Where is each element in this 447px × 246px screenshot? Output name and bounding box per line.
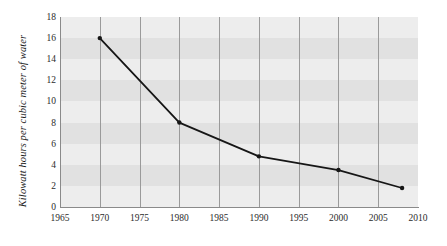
series-polyline bbox=[100, 38, 402, 188]
x-tick-label: 2005 bbox=[358, 212, 398, 224]
x-tick-label: 2000 bbox=[318, 212, 358, 224]
x-tick-label: 1980 bbox=[159, 212, 199, 224]
y-tick-label: 4 bbox=[36, 160, 56, 170]
x-tick-label: 2010 bbox=[398, 212, 438, 224]
y-tick-label: 12 bbox=[36, 75, 56, 85]
y-tick-label: 0 bbox=[36, 202, 56, 212]
y-axis-title: Kilowatt hours per cubic meter of water bbox=[17, 21, 33, 221]
x-axis-tick-labels: 1965197019751980198519901995200020052010 bbox=[0, 212, 447, 228]
x-tick-label: 1975 bbox=[120, 212, 160, 224]
data-point-1970 bbox=[98, 36, 102, 40]
x-axis-line bbox=[60, 207, 419, 208]
data-series-line bbox=[60, 17, 418, 207]
y-tick-label: 8 bbox=[36, 118, 56, 128]
x-tick-label: 1995 bbox=[279, 212, 319, 224]
data-point-2008 bbox=[400, 186, 404, 190]
x-tick-label: 1965 bbox=[40, 212, 80, 224]
line-chart: Kilowatt hours per cubic meter of water … bbox=[0, 0, 447, 246]
x-tick-label: 1985 bbox=[199, 212, 239, 224]
y-tick-label: 2 bbox=[36, 181, 56, 191]
y-tick-label: 10 bbox=[36, 96, 56, 106]
data-point-1980 bbox=[177, 120, 181, 124]
y-tick-label: 14 bbox=[36, 54, 56, 64]
x-tick-label: 1990 bbox=[239, 212, 279, 224]
data-point-2000 bbox=[336, 168, 340, 172]
y-tick-label: 6 bbox=[36, 139, 56, 149]
plot-area bbox=[60, 17, 418, 207]
y-axis-tick-labels: 024681012141618 bbox=[36, 17, 56, 207]
data-point-1990 bbox=[257, 154, 261, 158]
y-tick-label: 18 bbox=[36, 12, 56, 22]
y-tick-label: 16 bbox=[36, 33, 56, 43]
x-tick-label: 1970 bbox=[80, 212, 120, 224]
y-axis-line bbox=[60, 17, 61, 208]
